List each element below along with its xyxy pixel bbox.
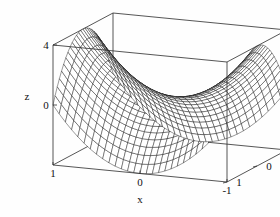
y-tick-label-1: 0 [266, 160, 272, 172]
surface-plot-figure: 10-1-10140xyz [0, 0, 280, 217]
x-tick-label-0: 1 [50, 167, 56, 179]
z-tick-label-0: 4 [43, 39, 49, 51]
plot-canvas: 10-1-10140xyz [0, 0, 280, 217]
x-tick-label-2: -1 [222, 184, 231, 196]
z-axis-label: z [25, 90, 30, 102]
x-tick-label-1: 0 [137, 176, 143, 188]
z-tick-label-1: 0 [43, 99, 49, 111]
y-tick-label-2: 1 [236, 176, 242, 188]
x-axis-label: x [137, 193, 143, 205]
